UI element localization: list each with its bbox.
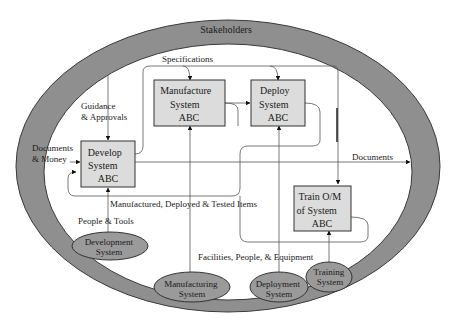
stakeholders-label: Stakeholders: [200, 24, 252, 35]
label-facilities: Facilities, People, & Equipment: [198, 252, 314, 262]
label-items: Manufactured, Deployed & Tested Items: [110, 199, 257, 209]
process-deploy[interactable]: Deploy System ABC: [251, 80, 305, 126]
system-development[interactable]: Development System: [72, 232, 148, 260]
system-deployment[interactable]: Deployment System: [250, 272, 308, 302]
label-specifications: Specifications: [162, 54, 213, 64]
system-manufacturing[interactable]: Manufacturing System: [154, 272, 230, 302]
label-documents-money-2: & Money: [32, 154, 67, 164]
stakeholders-ring: Stakeholders: [16, 20, 440, 312]
label-documents-out: Documents: [352, 152, 393, 162]
label-guidance: Guidance: [81, 101, 115, 111]
svg-text:Training System: Training System: [314, 267, 347, 287]
process-manufacture[interactable]: Manufacture System ABC: [154, 80, 225, 126]
label-people-tools: People & Tools: [78, 216, 134, 226]
label-documents-money-1: Documents: [32, 143, 73, 153]
process-train[interactable]: Train O/M of System ABC: [294, 186, 351, 231]
process-develop[interactable]: Develop System ABC: [81, 141, 135, 187]
system-training[interactable]: Training System: [306, 262, 352, 292]
system-context-diagram: Stakeholders Develop System ABC: [0, 0, 457, 323]
label-approvals: & Approvals: [81, 112, 128, 122]
